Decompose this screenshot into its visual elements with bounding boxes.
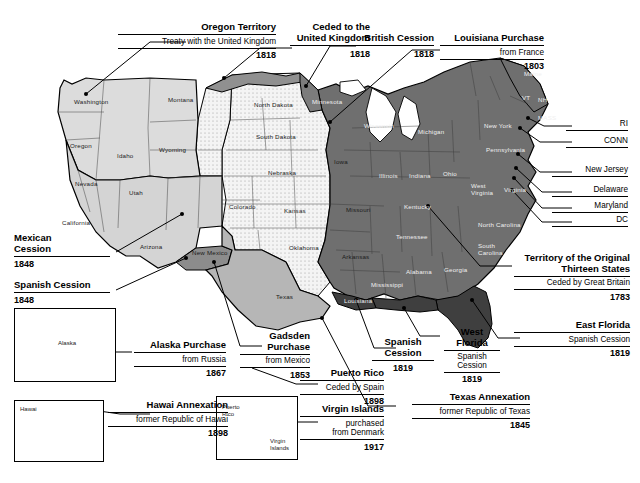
callout-sub: Ceded by Great Britain	[514, 277, 630, 291]
callout-title: Spanish Cession	[14, 280, 110, 293]
state-label-washington: Washington	[74, 98, 108, 105]
state-label-virginia: Virginia	[504, 186, 526, 193]
callout-title: Gadsden Purchase	[240, 330, 310, 355]
state-label-nebraska: Nebraska	[268, 169, 296, 176]
state-label-louisiana: Louisiana	[344, 297, 372, 304]
callout-sub: Spanish Cession	[514, 333, 630, 347]
callout-louisiana-purchase: Louisiana Purchase from France 1803	[440, 33, 544, 71]
callout-year: 1848	[14, 293, 110, 305]
state-label-west-virginia: West Virginia	[471, 183, 497, 196]
state-label-idaho: Idaho	[117, 152, 133, 159]
callout-title: Hawai Annexation	[108, 400, 228, 413]
callout-year: 1819	[444, 373, 500, 385]
state-label-montana: Montana	[168, 96, 193, 103]
callout-texas-annexation: Texas Annexation former Republic of Texa…	[412, 392, 530, 430]
state-label-nevada: Nevada	[75, 180, 98, 187]
state-label-tennessee: Tennessee	[396, 233, 428, 240]
callout-sub: Ceded by Spain	[300, 381, 384, 395]
callout-year: 1848	[14, 257, 110, 269]
state-label-iowa: Iowa	[334, 158, 348, 165]
state-label-mass: MASS	[538, 114, 556, 121]
state-label-wisconsin: Wisconsin	[364, 122, 394, 129]
callout-title: Louisiana Purchase	[440, 33, 544, 46]
callout-sub: from France	[440, 46, 544, 60]
callout-title: Territory of the Original Thirteen State…	[514, 252, 630, 277]
callout-title: West Florida	[444, 326, 500, 351]
edge-label-conn: CONN	[566, 136, 628, 148]
edge-label-ri: RI	[566, 119, 628, 131]
state-label-new-york: New York	[484, 122, 512, 129]
callout-year: 1803	[440, 60, 544, 72]
state-label-new-mexico: New Mexico	[192, 249, 228, 256]
callout-year: 1845	[412, 419, 530, 431]
state-label-arkansas: Arkansas	[342, 253, 369, 260]
callout-title: British Cession	[352, 33, 434, 46]
callout-sub: Spanish Cession	[444, 351, 500, 373]
callout-sub: former Republic of Hawai	[108, 413, 228, 427]
callout-year: 1867	[134, 367, 226, 379]
hawaii-inset-label: Hawai	[20, 406, 37, 412]
callout-year: 1818	[352, 46, 434, 59]
callout-sub: from Mexico	[240, 355, 310, 369]
callout-sub: former Republic of Texas	[412, 405, 530, 419]
callout-hawai-annexation: Hawai Annexation former Republic of Hawa…	[108, 400, 228, 438]
callout-title: East Florida	[514, 320, 630, 333]
callout-spanish-cession-west: Spanish Cession 1848	[14, 280, 110, 305]
state-label-oregon: Oregon	[70, 142, 92, 149]
state-label-georgia: Georgia	[444, 266, 467, 273]
virgin-islands-inset-label: Virgin Islands	[270, 438, 289, 452]
state-label-arizona: Arizona	[140, 243, 162, 250]
callout-title: Alaska Purchase	[134, 340, 226, 353]
state-label-california: California	[62, 219, 90, 226]
state-label-mississippi: Mississippi	[371, 281, 403, 288]
state-label-oklahoma: Oklahoma	[289, 244, 319, 251]
state-label-nh: NH	[538, 96, 547, 103]
callout-east-florida: East Florida Spanish Cession 1819	[514, 320, 630, 358]
region-oregon-territory	[58, 78, 200, 180]
territorial-acquisitions-map: Alaska Hawai Puerto Rico Virgin Islands …	[0, 0, 640, 483]
callout-year: 1898	[108, 427, 228, 439]
callout-british-cession: British Cession 1818	[352, 33, 434, 59]
state-label-kentucky: Kentucky	[404, 203, 431, 210]
state-label-illinois: Illinois	[379, 172, 398, 179]
state-label-kansas: Kansas	[284, 207, 306, 214]
state-label-wyoming: Wyoming	[159, 146, 186, 153]
callout-sub: from Russia	[134, 353, 226, 367]
callout-oregon-territory: Oregon Territory Treaty with the United …	[118, 22, 276, 60]
state-label-indiana: Indiana	[409, 172, 431, 179]
state-label-colorado: Colorado	[229, 203, 256, 210]
state-label-alabama: Alabama	[406, 268, 432, 275]
state-label-vt: VT	[522, 94, 530, 101]
alaska-inset-label: Alaska	[58, 340, 76, 346]
callout-title: Texas Annexation	[412, 392, 530, 405]
edge-label-delaware: Delaware	[552, 185, 628, 197]
callout-virgin-islands: Virgin Islands purchased from Denmark 19…	[300, 404, 384, 452]
callout-title: Spanish Cession	[372, 336, 434, 361]
callout-year: 1783	[514, 290, 630, 302]
state-label-north-carolina: North Carolina	[478, 221, 521, 228]
callout-title: Virgin Islands	[300, 404, 384, 417]
state-label-pennsylvania: Pennsylvania	[486, 146, 525, 153]
callout-title: Oregon Territory	[118, 22, 276, 35]
state-label-missouri: Missouri	[346, 206, 371, 213]
callout-puerto-rico: Puerto Rico Ceded by Spain 1898	[300, 368, 384, 406]
callout-year: 1917	[300, 440, 384, 452]
callout-alaska-purchase: Alaska Purchase from Russia 1867	[134, 340, 226, 378]
edge-label-new-jersey: New Jersey	[552, 165, 628, 177]
callout-original-thirteen: Territory of the Original Thirteen State…	[514, 252, 630, 302]
callout-title: Mexican Cession	[14, 232, 110, 257]
callout-sub: Treaty with the United Kingdom	[118, 35, 276, 49]
state-label-michigan: Michigan	[418, 128, 444, 135]
state-label-minnesota: Minnesota	[312, 98, 342, 105]
callout-year: 1818	[118, 49, 276, 61]
callout-year: 1819	[514, 347, 630, 359]
state-label-ohio: Ohio	[443, 170, 457, 177]
callout-spanish-cession-gulf: Spanish Cession 1819	[372, 336, 434, 373]
callout-year: 1819	[372, 361, 434, 373]
edge-label-maryland: Maryland	[552, 201, 628, 213]
state-label-south-dakota: South Dakota	[256, 133, 296, 140]
state-label-north-dakota: North Dakota	[254, 101, 293, 108]
state-label-maine: Maine	[524, 70, 542, 77]
state-label-utah: Utah	[129, 189, 143, 196]
callout-mexican-cession: Mexican Cession 1848	[14, 232, 110, 269]
